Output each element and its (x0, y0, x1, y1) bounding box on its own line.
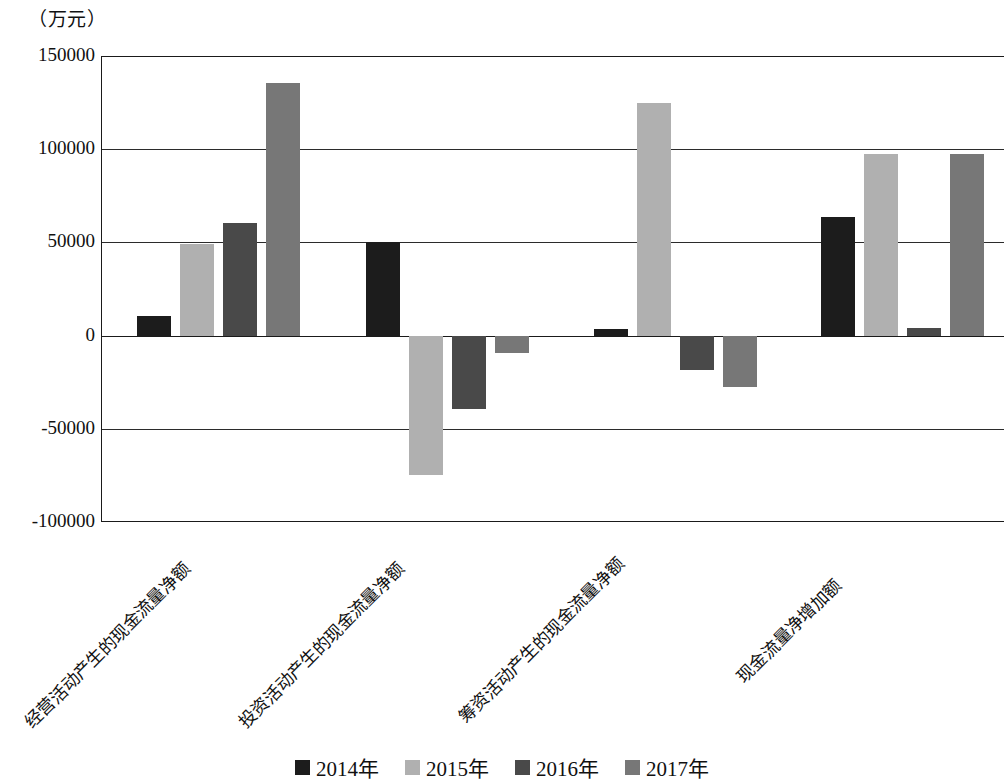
legend-label: 2015年 (426, 752, 489, 782)
bar (452, 336, 486, 409)
plot-top-border (102, 56, 1004, 57)
y-tick-label: 0 (0, 324, 95, 346)
y-axis-unit-label: （万元） (28, 4, 106, 31)
bar (723, 336, 757, 387)
legend-item: 2017年 (625, 752, 709, 782)
bar (907, 328, 941, 335)
x-category-label: 经营活动产生的现金流量净额 (18, 556, 195, 733)
gridline--50000 (102, 429, 1004, 430)
legend-label: 2017年 (646, 752, 709, 782)
gridline-100000 (102, 149, 1004, 150)
x-category-label: 筹资活动产生的现金流量净额 (452, 551, 629, 728)
y-tick-label: -50000 (0, 417, 95, 439)
legend-swatch-icon (405, 760, 420, 775)
gridline-0 (102, 336, 1004, 337)
bar (409, 336, 443, 475)
bar (637, 103, 671, 336)
plot-area (101, 56, 1004, 522)
bar (180, 244, 214, 335)
legend-item: 2016年 (515, 752, 599, 782)
legend-item: 2015年 (405, 752, 489, 782)
y-tick-label: 100000 (0, 137, 95, 159)
bar (680, 336, 714, 370)
y-tick-label: 150000 (0, 44, 95, 66)
chart-legend: 2014年2015年2016年2017年 (0, 752, 1004, 782)
bar (223, 223, 257, 336)
legend-item: 2014年 (295, 752, 379, 782)
bar (950, 154, 984, 336)
bar (266, 83, 300, 336)
bar (495, 336, 529, 353)
plot-bottom-border (102, 521, 1004, 522)
legend-swatch-icon (515, 760, 530, 775)
bar (821, 217, 855, 335)
chart-root: （万元） 150000100000500000-50000-100000 经营活… (0, 0, 1004, 782)
bar (137, 316, 171, 336)
x-category-label: 投资活动产生的现金流量净额 (232, 556, 409, 733)
y-tick-label: 50000 (0, 230, 95, 252)
x-category-label: 现金流量净增加额 (730, 572, 846, 688)
legend-label: 2016年 (536, 752, 599, 782)
bar (366, 242, 400, 335)
y-tick-label: -100000 (0, 510, 95, 532)
legend-label: 2014年 (316, 752, 379, 782)
legend-swatch-icon (625, 760, 640, 775)
bar (594, 329, 628, 336)
bar (864, 154, 898, 336)
legend-swatch-icon (295, 760, 310, 775)
